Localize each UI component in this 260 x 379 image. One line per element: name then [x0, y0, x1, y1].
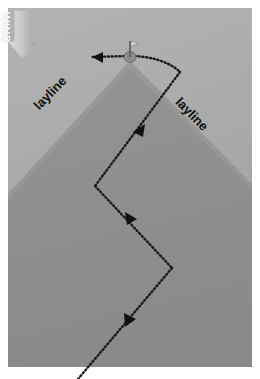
layline-diagram-figure: WIND layline layline	[0, 0, 260, 379]
diagram-canvas	[0, 0, 260, 379]
wind-label: WIND	[0, 12, 12, 43]
